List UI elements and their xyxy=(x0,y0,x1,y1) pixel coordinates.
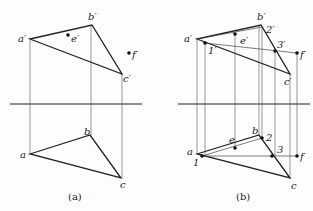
caption-b: (b) xyxy=(236,191,250,202)
point-f xyxy=(295,154,299,158)
label-2-prime: 2′ xyxy=(265,24,275,35)
label-a-a: a xyxy=(20,149,26,160)
caption-a: (a) xyxy=(68,191,82,202)
label-3: 3 xyxy=(277,144,283,155)
label-e-prime-b: e′ xyxy=(240,35,249,46)
label-1: 1 xyxy=(193,157,199,168)
point-e-prime-b xyxy=(233,32,237,36)
label-e-prime-a: e′ xyxy=(71,33,80,44)
label-f-b: f xyxy=(299,151,306,162)
point-f-prime-a xyxy=(127,51,131,55)
point-f-prime-b xyxy=(295,51,299,55)
label-f-prime-b: f′ xyxy=(299,49,307,60)
label-b-b: b xyxy=(252,125,258,136)
point-1-prime xyxy=(203,41,207,45)
label-a-prime-a: a′ xyxy=(18,33,27,44)
label-c-prime-a: c′ xyxy=(123,73,132,84)
top-triangle-b xyxy=(197,135,290,178)
point-3 xyxy=(270,154,274,158)
label-1-prime: 1′ xyxy=(208,45,217,56)
panel-a: a′ b′ c′ e′ f′ a b c (a) xyxy=(10,11,142,202)
label-c-a: c xyxy=(120,179,126,190)
point-e-prime-a xyxy=(66,33,70,37)
label-c-prime-b: c′ xyxy=(284,76,293,87)
label-b-a: b xyxy=(84,126,90,137)
label-a-b: a xyxy=(187,146,193,157)
label-c-b: c xyxy=(291,180,297,191)
label-b-prime-a: b′ xyxy=(88,11,97,22)
panel-b: a′ b′ 2′ 3′ 1′ e′ f′ c′ a b e 2 3 f 1 c … xyxy=(178,11,310,202)
label-f-prime-a: f′ xyxy=(131,49,139,60)
point-1 xyxy=(200,154,204,158)
label-3-prime: 3′ xyxy=(277,39,286,50)
label-2: 2 xyxy=(265,132,272,143)
point-2 xyxy=(260,136,264,140)
label-b-prime-b: b′ xyxy=(257,11,266,22)
point-e xyxy=(233,146,237,150)
top-triangle-a xyxy=(30,135,121,178)
label-a-prime-b: a′ xyxy=(184,33,193,44)
label-e-b: e xyxy=(229,134,235,145)
diagram-svg: a′ b′ c′ e′ f′ a b c (a) xyxy=(0,0,313,211)
projection-diagram: a′ b′ c′ e′ f′ a b c (a) xyxy=(0,0,313,211)
aux-line-1-2-prime xyxy=(197,27,262,39)
